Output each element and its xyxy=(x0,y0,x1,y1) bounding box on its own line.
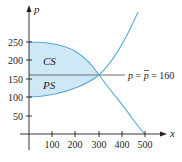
y-tick-label: 50 xyxy=(13,111,23,122)
x-tick-label: 400 xyxy=(115,139,130,150)
y-axis-arrow-icon xyxy=(27,5,32,12)
y-tick-label: 200 xyxy=(8,55,23,66)
x-tick-label: 200 xyxy=(68,139,83,150)
y-axis-label: p xyxy=(33,3,40,15)
x-tick-label: 100 xyxy=(45,139,60,150)
eq-equals-2: = 160 xyxy=(149,70,175,81)
y-tick-label: 150 xyxy=(8,74,23,85)
x-tick-label: 500 xyxy=(138,139,153,150)
x-axis-label: x xyxy=(169,127,175,139)
producer-surplus-region xyxy=(29,75,99,97)
x-tick-label: 300 xyxy=(92,139,107,150)
ps-label: PS xyxy=(42,79,56,91)
x-axis-arrow-icon xyxy=(160,132,167,137)
surplus-chart: 250 200 150 100 50 100 200 300 400 500 p… xyxy=(0,0,182,162)
eq-equals-1: = xyxy=(133,70,144,81)
cs-label: CS xyxy=(43,55,56,67)
y-tick-label: 250 xyxy=(8,37,23,48)
equilibrium-label: p = p = 160 xyxy=(127,70,174,81)
y-tick-label: 100 xyxy=(8,92,23,103)
